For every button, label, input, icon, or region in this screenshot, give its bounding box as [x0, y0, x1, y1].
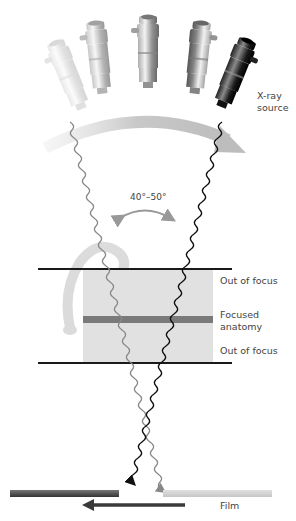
- focal-plane-band: [83, 316, 213, 323]
- film-final-position: [163, 490, 272, 497]
- out-of-focus-bottom-label: Out of focus: [220, 345, 278, 357]
- xray-source-label: X-ray source: [257, 90, 289, 114]
- angle-arc: [120, 211, 170, 219]
- diagram-canvas: [0, 0, 296, 521]
- film-initial-position: [10, 490, 119, 497]
- xray-tube-1: [39, 36, 92, 115]
- xray-tube-4: [184, 19, 220, 95]
- out-of-focus-top-label: Out of focus: [220, 275, 278, 287]
- tomography-diagram: X-ray source 40°–50° Out of focus Focuse…: [0, 0, 296, 521]
- film-motion-arrow: [82, 499, 185, 511]
- xray-tube-3: [131, 15, 159, 89]
- angle-label: 40°–50°: [130, 191, 166, 203]
- focused-anatomy-label: Focused anatomy: [220, 309, 262, 333]
- xray-tube-2: [78, 19, 114, 95]
- film-label: Film: [220, 500, 239, 512]
